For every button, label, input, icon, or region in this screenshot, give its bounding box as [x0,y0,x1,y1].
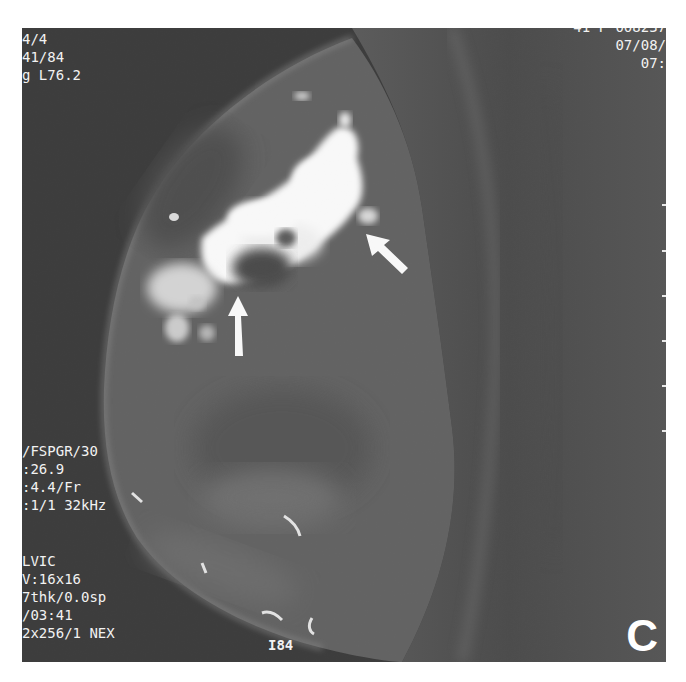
overlay-line: /03:41 [22,606,115,624]
overlay-line: :1/1 32kHz [22,496,106,514]
overlay-line: 07/08/ [573,36,666,54]
mri-image-frame: 4/441/84g L76.2 41 F 00823707/08/07: /FS… [22,28,666,662]
overlay-line: LVIC [22,552,115,570]
overlay-line: :26.9 [22,460,106,478]
panel-label: C [626,614,658,658]
scale-ticks [662,28,666,662]
overlay-line: :4.4/Fr [22,478,106,496]
overlay-top-right: 41 F 00823707/08/07: [573,28,666,72]
overlay-line: 7thk/0.0sp [22,588,115,606]
overlay-line: 41/84 [22,48,81,66]
overlay-line: V:16x16 [22,570,115,588]
overlay-acquisition-params: LVICV:16x167thk/0.0sp/03:412x256/1 NEX [22,552,115,642]
overlay-line: 41 F 008237 [573,28,666,36]
overlay-orientation-label: I84 [268,636,293,654]
overlay-line: 07: [573,54,666,72]
mri-scan-image [22,28,666,662]
overlay-top-left: 4/441/84g L76.2 [22,30,81,84]
overlay-sequence-params: /FSPGR/30:26.9:4.4/Fr:1/1 32kHz [22,442,106,514]
overlay-line: g L76.2 [22,66,81,84]
overlay-line: 4/4 [22,30,81,48]
overlay-line: /FSPGR/30 [22,442,106,460]
overlay-line: 2x256/1 NEX [22,624,115,642]
